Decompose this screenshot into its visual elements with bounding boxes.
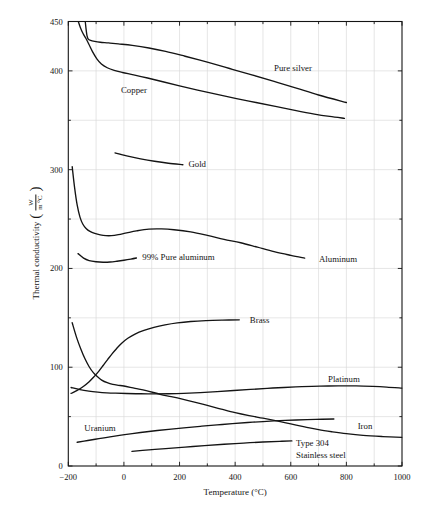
curve-label-platinum: Platinum	[328, 374, 360, 384]
x-tick-label: 1000	[394, 472, 411, 482]
curve-99-pure-aluminum	[78, 254, 136, 263]
curve-aluminum	[72, 167, 304, 258]
curve-label-type-304-stainless-steel: Type 304	[296, 438, 329, 448]
curve-gold	[115, 153, 183, 165]
curve-label-copper: Copper	[121, 85, 147, 95]
y-tick-label: 0	[59, 461, 63, 471]
unit-paren-close-icon: )	[29, 187, 44, 192]
curve-label-brass: Brass	[250, 315, 270, 325]
y-tick-label: 200	[50, 263, 63, 273]
unit-paren-open-icon: (	[29, 214, 44, 219]
unit-fraction: W m °C	[27, 195, 44, 211]
y-tick-label: 100	[50, 362, 63, 372]
x-axis-title: Temperature (°C)	[204, 487, 267, 497]
plot-canvas: −200020040060080010000100200300400450Pur…	[0, 0, 427, 521]
unit-numerator: W	[27, 199, 35, 205]
x-tick-label: 600	[284, 472, 297, 482]
curve-platinum	[71, 386, 402, 394]
unit-denominator: m °C	[36, 195, 45, 211]
y-axis-title: Thermal conductivity ( W m °C )	[27, 187, 44, 300]
y-tick-label: 300	[50, 165, 63, 175]
curve-label-type-304-stainless-steel: Stainless steel	[296, 450, 346, 460]
curve-label-aluminum: Aluminum	[319, 254, 357, 264]
curve-type-304-stainless-steel	[132, 441, 292, 451]
y-axis-title-text: Thermal conductivity	[31, 222, 41, 300]
curve-label-gold: Gold	[188, 159, 206, 169]
x-tick-label: 800	[340, 472, 353, 482]
curve-label-uranium: Uranium	[84, 423, 115, 433]
x-tick-label: −200	[60, 472, 78, 482]
curve-label-iron: Iron	[358, 421, 373, 431]
thermal-conductivity-figure: −200020040060080010000100200300400450Pur…	[0, 0, 427, 521]
x-tick-label: 200	[173, 472, 186, 482]
y-tick-label: 400	[50, 66, 63, 76]
y-tick-label: 450	[50, 17, 63, 27]
curve-label-99-pure-aluminum: 99% Pure aluminum	[142, 252, 214, 262]
x-tick-label: 0	[122, 472, 126, 482]
x-tick-label: 400	[229, 472, 242, 482]
curve-label-pure-silver: Pure silver	[274, 63, 312, 73]
